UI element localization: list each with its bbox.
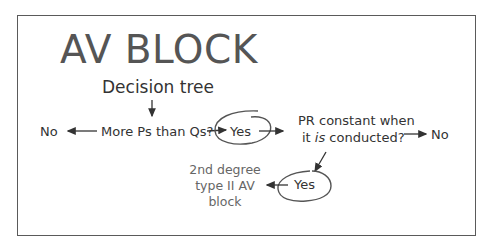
yes-circle-2 bbox=[278, 171, 331, 201]
arrow-right-icon bbox=[207, 130, 226, 131]
yes-circle-1 bbox=[215, 111, 271, 144]
diagram-connectors bbox=[0, 0, 493, 250]
arrow-down-left-icon bbox=[315, 152, 326, 171]
